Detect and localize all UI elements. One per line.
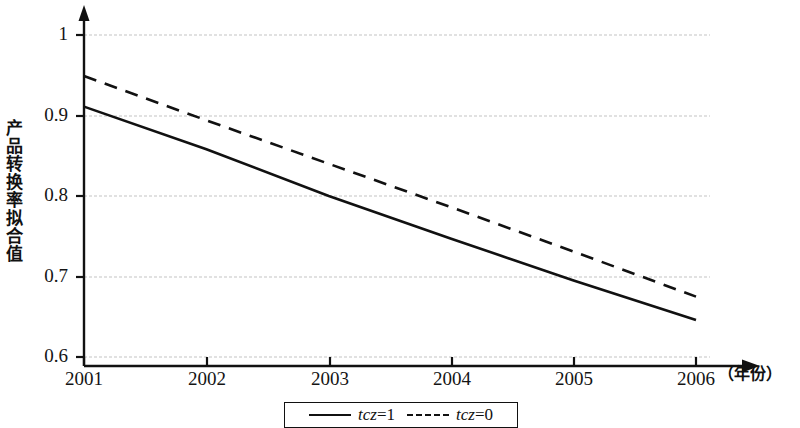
data-series-group	[84, 76, 696, 320]
x-tick-label-2002: 2002	[167, 368, 247, 390]
y-axis	[76, 5, 90, 366]
x-tick-label-2003: 2003	[290, 368, 370, 390]
y-axis-title: 产品转换率拟合值	[0, 96, 26, 286]
x-axis-title: （年份）	[718, 360, 782, 384]
y-axis-title-text: 产品转换率拟合值	[5, 119, 22, 263]
legend-item-tcz0: tcz=0	[407, 405, 493, 425]
x-tick-label-2005: 2005	[534, 368, 614, 390]
y-tick-label-0.7: 0.7	[26, 265, 68, 287]
y-tick-label-1: 1	[26, 23, 68, 45]
legend-label-tcz0: tcz=0	[456, 405, 493, 425]
gridlines	[84, 35, 710, 357]
chart-plot-svg	[0, 0, 800, 428]
y-tick-label-0.9: 0.9	[26, 104, 68, 126]
legend-label-tcz1-rest: =1	[377, 405, 395, 424]
legend-sample-dashed-icon	[407, 414, 449, 416]
x-tick-label-2004: 2004	[412, 368, 492, 390]
x-tick-label-2001: 2001	[44, 368, 124, 390]
legend-label-tcz1-italic: tcz	[358, 405, 377, 424]
legend-label-tcz1: tcz=1	[358, 405, 395, 425]
legend-label-tcz0-rest: =0	[475, 405, 493, 424]
chart-figure: 产品转换率拟合值 1 0.9 0.8 0.7 0.6 2001 2002 200…	[0, 0, 800, 428]
series-line-tcz1	[84, 107, 696, 320]
y-tick-label-0.8: 0.8	[26, 184, 68, 206]
legend-item-tcz1: tcz=1	[309, 405, 395, 425]
legend-sample-solid-icon	[309, 414, 351, 416]
y-tick-label-0.6: 0.6	[26, 345, 68, 367]
legend-label-tcz0-italic: tcz	[456, 405, 475, 424]
chart-legend: tcz=1 tcz=0	[284, 402, 518, 428]
y-axis-arrowhead	[79, 5, 90, 21]
series-line-tcz0	[84, 76, 696, 297]
